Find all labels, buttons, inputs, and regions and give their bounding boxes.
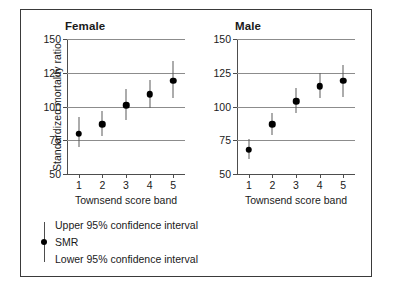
- x-tick-label-2: 2: [99, 180, 105, 191]
- x-tick-label-3: 3: [123, 180, 129, 191]
- x-tick-label-2: 2: [269, 180, 275, 191]
- data-point-male-band-5: [340, 78, 347, 85]
- y-tick-100: [233, 107, 237, 108]
- y-tick-label-75: 75: [49, 135, 61, 146]
- gridline-y-150: [67, 39, 185, 40]
- x-axis-title-male: Townsend score band: [237, 194, 355, 206]
- x-tick-label-1: 1: [246, 180, 252, 191]
- plot-area-male: Townsend score band 507510012515012345: [237, 39, 355, 174]
- gridline-y-75: [237, 140, 355, 141]
- panel-male: Male Townsend score band 507510012515012…: [197, 20, 367, 200]
- x-tick-2: [102, 174, 103, 178]
- y-tick-125: [233, 73, 237, 74]
- legend-label-lower: Lower 95% confidence interval: [55, 254, 198, 265]
- data-point-female-band-4: [146, 91, 153, 98]
- x-tick-5: [343, 174, 344, 178]
- x-tick-3: [296, 174, 297, 178]
- y-tick-75: [233, 140, 237, 141]
- data-point-female-band-2: [99, 121, 106, 128]
- y-tick-100: [63, 107, 67, 108]
- data-point-male-band-4: [316, 83, 323, 90]
- x-tick-4: [150, 174, 151, 178]
- y-tick-label-50: 50: [49, 169, 61, 180]
- y-tick-label-150: 150: [43, 34, 61, 45]
- y-tick-label-75: 75: [219, 135, 231, 146]
- gridline-y-125: [237, 73, 355, 74]
- y-tick-150: [233, 39, 237, 40]
- y-tick-label-125: 125: [43, 68, 61, 79]
- y-tick-label-100: 100: [213, 101, 231, 112]
- data-point-male-band-2: [269, 121, 276, 128]
- x-tick-label-5: 5: [340, 180, 346, 191]
- gridline-y-150: [237, 39, 355, 40]
- figure-frame: Female Standardized mortality ratio Town…: [20, 9, 372, 277]
- data-point-female-band-3: [123, 102, 130, 109]
- x-tick-label-4: 4: [317, 180, 323, 191]
- y-tick-50: [233, 174, 237, 175]
- x-tick-label-5: 5: [170, 180, 176, 191]
- data-point-male-band-3: [293, 98, 300, 105]
- y-tick-75: [63, 140, 67, 141]
- x-tick-label-3: 3: [293, 180, 299, 191]
- panel-title-male: Male: [235, 20, 261, 32]
- y-tick-label-50: 50: [219, 169, 231, 180]
- panel-female: Female Standardized mortality ratio Town…: [27, 20, 197, 200]
- y-tick-label-100: 100: [43, 101, 61, 112]
- x-tick-2: [272, 174, 273, 178]
- gridline-y-125: [67, 73, 185, 74]
- x-tick-label-1: 1: [76, 180, 82, 191]
- x-tick-5: [173, 174, 174, 178]
- y-tick-label-150: 150: [213, 34, 231, 45]
- data-point-female-band-1: [76, 130, 83, 137]
- data-point-male-band-1: [246, 146, 253, 153]
- legend-label-smr: SMR: [55, 237, 78, 248]
- x-tick-1: [249, 174, 250, 178]
- y-tick-50: [63, 174, 67, 175]
- y-tick-150: [63, 39, 67, 40]
- panel-title-female: Female: [65, 20, 105, 32]
- x-axis-title-female: Townsend score band: [67, 194, 185, 206]
- x-tick-label-4: 4: [147, 180, 153, 191]
- y-tick-125: [63, 73, 67, 74]
- data-point-female-band-5: [170, 78, 177, 85]
- plot-area-female: Standardized mortality ratio Townsend sc…: [67, 39, 185, 174]
- x-tick-4: [320, 174, 321, 178]
- x-tick-1: [79, 174, 80, 178]
- gridline-y-75: [67, 140, 185, 141]
- y-tick-label-125: 125: [213, 68, 231, 79]
- legend: Upper 95% confidence interval SMR Lower …: [33, 218, 353, 270]
- legend-label-upper: Upper 95% confidence interval: [55, 220, 198, 231]
- x-tick-3: [126, 174, 127, 178]
- legend-marker-icon: [41, 239, 47, 245]
